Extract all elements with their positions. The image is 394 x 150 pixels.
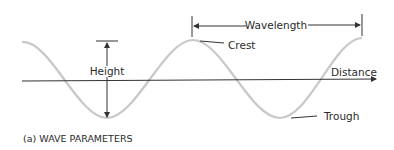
trough-leader	[291, 116, 317, 118]
distance-label: Distance	[331, 66, 377, 78]
wave-curve	[22, 38, 362, 118]
distance-axis	[22, 79, 376, 81]
trough-label: Trough	[323, 110, 359, 122]
figure-caption: (a) WAVE PARAMETERS	[23, 133, 133, 144]
crest-label: Crest	[228, 39, 255, 51]
wave-parameters-diagram: Height Wavelength Crest Trough Distance …	[0, 0, 394, 150]
wavelength-label: Wavelength	[245, 19, 307, 31]
height-label: Height	[90, 65, 125, 77]
